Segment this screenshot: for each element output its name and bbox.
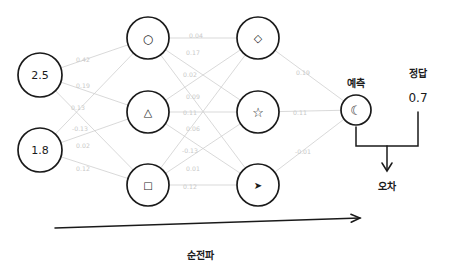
circle-glyph: ○: [143, 32, 153, 46]
neural-network-diagram: 0.420.190.13-0.130.020.12 0.040.170.020.…: [0, 0, 449, 275]
weight-label-in1-h3: 0.13: [71, 104, 85, 111]
edge-in1-h1: [61, 45, 128, 68]
weight-label-in1-h2: 0.19: [76, 82, 90, 89]
input-layer-nodes: 2.51.8: [18, 53, 62, 172]
edge-g2-out1: [279, 110, 341, 111]
edge-in2-h3: [61, 157, 128, 179]
edges-input-to-hidden1: [55, 45, 133, 179]
prediction-label: 예측: [347, 77, 365, 89]
weight-label-in1-h1: 0.42: [76, 56, 90, 63]
star-glyph: ☆: [252, 105, 264, 120]
hidden-layer-1-nodes: ○△□: [127, 17, 169, 206]
weight-label-h1-g3: 0.02: [183, 71, 197, 78]
answer-value: 0.7: [408, 91, 427, 105]
diamond-glyph: ◇: [254, 32, 263, 45]
weight-labels-hidden1-to-hidden2: 0.040.170.020.090.110.06-0.130.010.12: [182, 32, 203, 190]
weight-label-in2-h2: 0.02: [76, 142, 90, 149]
weight-label-g1-out1: 0.19: [296, 69, 310, 76]
weight-label-h3-g3: 0.12: [183, 183, 197, 190]
weight-label-h3-g1: -0.13: [182, 147, 198, 154]
weight-label-g3-out1: -0.01: [295, 148, 311, 155]
error-label: 오차: [378, 180, 397, 192]
node-value-in1: 2.5: [31, 69, 49, 82]
forward-propagation-label: 순전파: [187, 249, 215, 261]
forward-flow-arrow: [55, 218, 360, 228]
weight-label-h3-g2: 0.01: [186, 165, 200, 172]
moon-glyph: ☾: [350, 103, 362, 118]
hidden-layer-2-nodes: ◇☆➤: [237, 17, 279, 206]
triangle-glyph: △: [144, 106, 153, 119]
node-value-in2: 1.8: [31, 144, 49, 157]
weight-label-h2-g2: 0.11: [183, 109, 197, 116]
edges-hidden1-to-hidden2: [161, 38, 246, 185]
weight-label-h2-g1: 0.09: [186, 93, 200, 100]
edge-in2-h2: [61, 119, 128, 143]
weight-labels-hidden2-to-output: 0.190.11-0.01: [293, 69, 311, 155]
weight-label-in2-h3: 0.12: [76, 165, 90, 172]
edge-in2-h1: [55, 53, 133, 134]
edge-g1-out1: [275, 50, 344, 101]
weight-label-g2-out1: 0.11: [293, 109, 307, 116]
output-layer-nodes: ☾: [341, 95, 371, 125]
square-glyph: □: [143, 180, 152, 191]
pointer-glyph: ➤: [254, 180, 262, 191]
weight-label-h1-g1: 0.04: [189, 32, 203, 39]
weight-label-h2-g3: 0.06: [186, 125, 200, 132]
weight-labels-input-to-hidden1: 0.420.190.13-0.130.020.12: [71, 56, 90, 172]
weight-label-in2-h1: -0.13: [72, 125, 88, 132]
answer-label: 정답: [409, 67, 428, 79]
edge-g3-out1: [275, 119, 344, 172]
weight-label-h1-g2: 0.17: [186, 49, 200, 56]
